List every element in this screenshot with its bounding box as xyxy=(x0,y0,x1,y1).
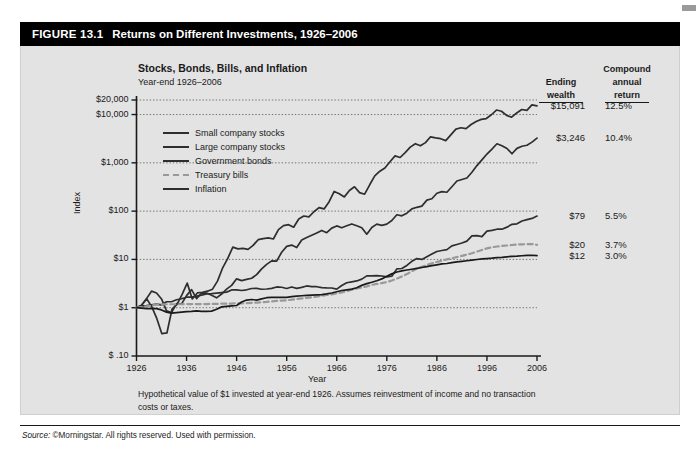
legend-line-icon xyxy=(163,184,189,194)
ending-wealth-value: $3,246 xyxy=(533,132,585,143)
y-tick-label: $10,000 xyxy=(67,109,129,119)
page-corner-mark xyxy=(682,5,696,11)
legend-line-icon xyxy=(163,170,189,180)
compound-return-value: 10.4% xyxy=(605,132,632,143)
figure-header-bar: FIGURE 13.1 Returns on Different Investm… xyxy=(20,22,680,46)
legend-label: Treasury bills xyxy=(195,170,248,180)
x-tick-label: 1926 xyxy=(117,363,157,373)
table-head-ending: Ending xyxy=(535,77,587,87)
ending-wealth-value: $79 xyxy=(533,210,585,221)
legend-line-icon xyxy=(163,156,189,166)
legend-item: Treasury bills xyxy=(163,168,323,182)
x-tick-label: 1956 xyxy=(267,363,307,373)
table-head-return: return xyxy=(595,90,659,100)
chart-subtitle: Year-end 1926–2006 xyxy=(138,77,222,87)
table-head-wealth: wealth xyxy=(535,90,587,100)
source-divider xyxy=(20,425,680,426)
ending-wealth-value: $12 xyxy=(533,250,585,261)
x-tick-label: 1936 xyxy=(167,363,207,373)
source-label: Source: xyxy=(22,431,50,440)
y-tick-label: $20,000 xyxy=(67,94,129,104)
legend-label: Small company stocks xyxy=(195,128,285,138)
figure-root: FIGURE 13.1 Returns on Different Investm… xyxy=(0,0,699,467)
compound-return-value: 3.0% xyxy=(605,250,627,261)
ending-wealth-value: $15,091 xyxy=(533,100,585,111)
x-tick-label: 1946 xyxy=(217,363,257,373)
legend-item: Inflation xyxy=(163,182,323,196)
source-text: ©Morningstar. All rights reserved. Used … xyxy=(53,431,256,440)
table-head-annual: annual xyxy=(595,77,659,87)
x-tick-label: 1996 xyxy=(467,363,507,373)
legend-label: Inflation xyxy=(195,184,227,194)
chart-legend: Small company stocksLarge company stocks… xyxy=(163,126,323,196)
y-tick-label: $ .10 xyxy=(67,350,129,360)
chart-title: Stocks, Bonds, Bills, and Inflation xyxy=(138,62,307,74)
legend-label: Government bonds xyxy=(195,156,272,166)
x-tick-label: 1986 xyxy=(417,363,457,373)
legend-item: Large company stocks xyxy=(163,140,323,154)
x-axis-title: Year xyxy=(308,374,326,384)
legend-line-icon xyxy=(163,128,189,138)
y-tick-label: $1 xyxy=(67,302,129,312)
x-tick-label: 1966 xyxy=(317,363,357,373)
compound-return-value: 5.5% xyxy=(605,210,627,221)
y-tick-label: $1,000 xyxy=(67,157,129,167)
source-line: Source: ©Morningstar. All rights reserve… xyxy=(22,431,256,440)
ending-wealth-value: $20 xyxy=(533,239,585,250)
legend-item: Small company stocks xyxy=(163,126,323,140)
x-tick-label: 2006 xyxy=(517,363,557,373)
legend-line-icon xyxy=(163,142,189,152)
x-tick-label: 1976 xyxy=(367,363,407,373)
legend-label: Large company stocks xyxy=(195,142,285,152)
table-head-compound: Compound xyxy=(595,64,659,74)
figure-title: Returns on Different Investments, 1926–2… xyxy=(112,28,357,40)
y-tick-label: $100 xyxy=(67,205,129,215)
compound-return-value: 3.7% xyxy=(605,239,627,250)
legend-item: Government bonds xyxy=(163,154,323,168)
figure-number: FIGURE 13.1 xyxy=(32,28,103,40)
chart-footnote: Hypothetical value of $1 invested at yea… xyxy=(138,388,538,413)
y-tick-label: $10 xyxy=(67,253,129,263)
compound-return-value: 12.5% xyxy=(605,100,632,111)
